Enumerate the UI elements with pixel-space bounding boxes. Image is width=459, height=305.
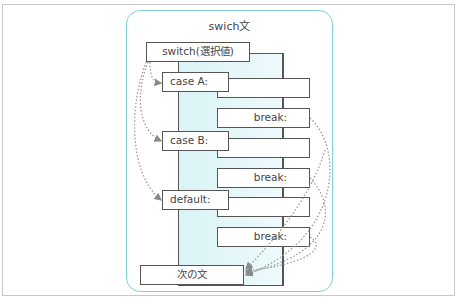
arrow-switch-to-case-a xyxy=(150,62,161,83)
flow-arrows xyxy=(0,0,459,305)
arrow-break-a-to-next xyxy=(246,118,330,275)
arrow-break-b-to-next xyxy=(246,178,325,273)
arrow-break-default-to-next xyxy=(246,237,316,271)
arrow-switch-to-default xyxy=(135,62,161,200)
